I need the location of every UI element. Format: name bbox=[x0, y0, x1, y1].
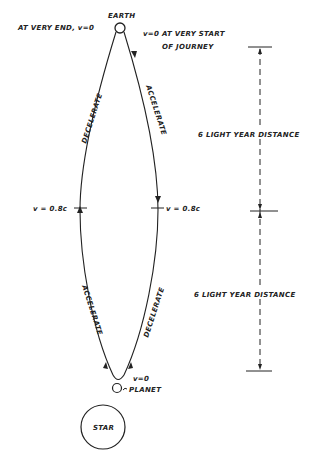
left-upper-path-label: DECELERATE bbox=[80, 92, 104, 144]
end-annotation: AT VERY END, v=0 bbox=[17, 24, 94, 32]
distance-dimension: 6 LIGHT YEAR DISTANCE 6 LIGHT YEAR DISTA… bbox=[194, 47, 326, 371]
planet-speed-label: v=0 bbox=[133, 375, 149, 383]
right-upper-path-label: ACCELERATE bbox=[144, 83, 168, 136]
lower-distance-label: 6 LIGHT YEAR DISTANCE bbox=[194, 291, 295, 299]
earth-label: EARTH bbox=[108, 12, 135, 20]
start-annotation-line1: v=0 AT VERY START bbox=[143, 30, 226, 38]
arrowhead-icon bbox=[155, 196, 161, 203]
planet-node: PLANET v=0 bbox=[113, 375, 163, 394]
turnaround-path bbox=[113, 375, 124, 380]
diagram-canvas: EARTH PLANET v=0 STAR AT VERY END, v=0 v… bbox=[0, 0, 328, 471]
left-lower-path-label: ACCELERATE bbox=[80, 283, 104, 336]
left-speed-label: v = 0.8c bbox=[33, 205, 68, 213]
earth-node: EARTH bbox=[108, 12, 135, 33]
right-lower-path-label: DECELERATE bbox=[142, 286, 166, 338]
upper-distance-label: 6 LIGHT YEAR DISTANCE bbox=[198, 131, 299, 139]
planet-label: PLANET bbox=[129, 386, 162, 394]
right-speed-label: v = 0.8c bbox=[166, 205, 201, 213]
start-annotation-line2: OF JOURNEY bbox=[162, 43, 214, 51]
arrowhead-icon bbox=[77, 206, 83, 213]
star-label: STAR bbox=[93, 424, 114, 432]
star-node: STAR bbox=[81, 405, 125, 449]
